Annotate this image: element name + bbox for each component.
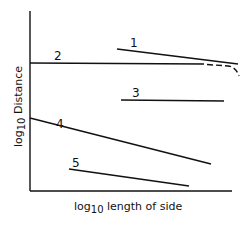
series-2-line (30, 63, 204, 64)
y-axis-title-base: 10 (16, 118, 27, 131)
plot-area: 1 2 3 4 5 (0, 0, 246, 231)
x-axis-title: log10 length of side (74, 200, 182, 213)
series-4-label: 4 (56, 117, 64, 131)
series-3-line (121, 100, 224, 101)
series-2-label: 2 (54, 49, 62, 63)
series-1-label: 1 (130, 36, 138, 50)
chart: 1 2 3 4 5 log10 Distance log10 length of… (0, 0, 246, 231)
series-1-line (117, 49, 238, 64)
x-axis-title-base: 10 (91, 204, 104, 215)
y-axis-title: log10 Distance (12, 57, 25, 157)
series-5-line (69, 169, 189, 186)
series-5-label: 5 (72, 156, 80, 170)
y-axis-title-text: Distance (12, 66, 25, 118)
y-axis-title-log: log (12, 130, 25, 147)
series-3-label: 3 (132, 86, 140, 100)
x-axis-title-text: length of side (104, 200, 183, 213)
series-2-dashed-tail (207, 65, 239, 77)
x-axis-title-log: log (74, 200, 91, 213)
